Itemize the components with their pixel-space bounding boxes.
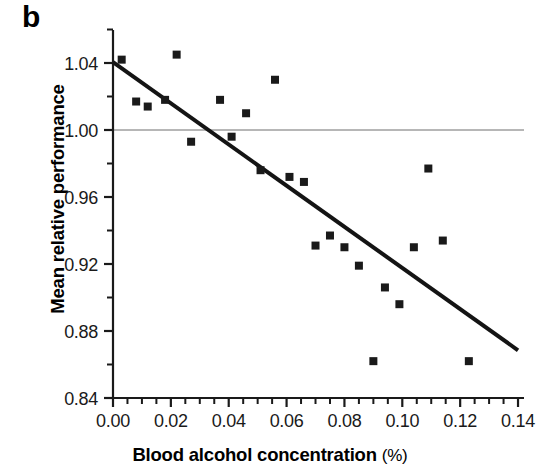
y-tick-label: 0.88 [64, 322, 98, 342]
trend-line-segment [113, 62, 518, 350]
y-tick-label: 1.00 [64, 121, 98, 141]
data-point [312, 242, 320, 250]
data-point [340, 243, 348, 251]
data-points [118, 51, 473, 366]
data-point [173, 51, 181, 59]
x-tick-label: 0.06 [270, 411, 304, 431]
data-point [285, 173, 293, 181]
figure-panel-b: b Mean relative performance Blood alcoho… [0, 0, 540, 476]
data-point [355, 262, 363, 270]
data-point [187, 138, 195, 146]
data-point [465, 357, 473, 365]
y-tick-label: 0.84 [64, 389, 98, 409]
y-tick-label: 0.96 [64, 188, 98, 208]
data-point [144, 103, 152, 111]
data-point [271, 76, 279, 84]
data-point [439, 237, 447, 245]
x-tick-label: 0.14 [501, 411, 535, 431]
x-tick-label: 0.02 [154, 411, 188, 431]
y-axis-ticks [104, 30, 113, 399]
data-point [161, 96, 169, 104]
x-tick-label: 0.04 [212, 411, 246, 431]
axes [105, 30, 524, 398]
data-point [228, 133, 236, 141]
data-point [326, 232, 334, 240]
x-tick-label: 0.08 [328, 411, 362, 431]
data-point [132, 98, 140, 106]
x-tick-label: 0.00 [96, 411, 130, 431]
data-point [395, 300, 403, 308]
scatter-plot: 0.840.880.920.961.001.04 0.000.020.040.0… [0, 0, 540, 476]
x-axis-ticks [113, 398, 518, 407]
y-tick-label: 0.92 [64, 255, 98, 275]
data-point [424, 165, 432, 173]
x-tick-label: 0.12 [443, 411, 477, 431]
y-tick-label: 1.04 [64, 54, 98, 74]
data-point [410, 243, 418, 251]
y-tick-labels: 0.840.880.920.961.001.04 [64, 54, 98, 409]
x-tick-labels: 0.000.020.040.060.080.100.120.14 [96, 411, 535, 431]
data-point [216, 96, 224, 104]
data-point [242, 109, 250, 117]
data-point [257, 166, 265, 174]
regression-line [113, 62, 518, 350]
data-point [369, 357, 377, 365]
data-point [300, 178, 308, 186]
x-tick-label: 0.10 [385, 411, 419, 431]
data-point [381, 283, 389, 291]
data-point [118, 56, 126, 64]
